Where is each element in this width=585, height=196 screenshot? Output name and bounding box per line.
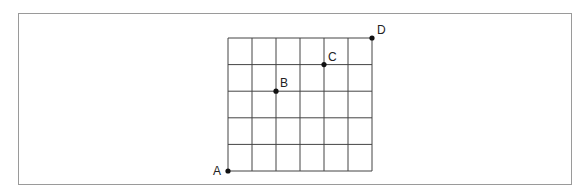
point-d-label: D xyxy=(377,23,386,37)
point-b-label: B xyxy=(280,76,288,90)
point-a-dot xyxy=(225,168,230,173)
point-c-label: C xyxy=(328,50,337,64)
point-b-dot xyxy=(273,89,278,94)
point-d-dot xyxy=(369,35,374,40)
point-a-label: A xyxy=(213,164,221,178)
point-c-dot xyxy=(321,62,326,67)
grid-diagram: ABCD xyxy=(0,0,585,196)
grid-lines xyxy=(228,38,372,171)
